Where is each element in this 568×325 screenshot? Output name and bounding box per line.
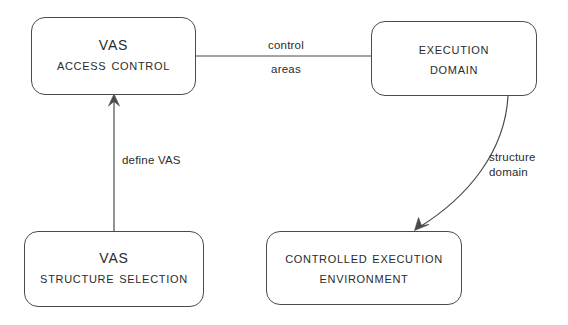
node-vas-structure-selection-line2: Structure Selection	[40, 268, 188, 288]
node-vas-structure-selection[interactable]: VAS Structure Selection	[24, 231, 204, 307]
edge-label-structure-domain: structure domain	[489, 150, 559, 180]
node-execution-domain-line2: Domain	[430, 59, 478, 79]
node-execution-domain-line1: Execution	[419, 39, 489, 59]
node-controlled-execution-environment[interactable]: Controlled Execution Environment	[266, 231, 462, 305]
node-vas-structure-selection-line1: VAS	[99, 250, 128, 268]
edge-structure-domain-arrowhead	[415, 218, 430, 231]
node-vas-access-control[interactable]: VAS Access Control	[31, 17, 196, 95]
node-controlled-execution-environment-line2: Environment	[320, 268, 409, 288]
diagram-canvas: VAS Access Control Execution Domain VAS …	[0, 0, 568, 325]
edge-label-control-areas: control areas	[258, 38, 314, 77]
edge-label-control-areas-line2: areas	[258, 62, 314, 77]
node-vas-access-control-line1: VAS	[99, 37, 128, 55]
edge-label-structure-domain-line1: structure	[489, 150, 559, 165]
node-execution-domain[interactable]: Execution Domain	[371, 21, 537, 96]
node-vas-access-control-line2: Access Control	[57, 55, 170, 75]
edge-label-structure-domain-line2: domain	[489, 165, 559, 180]
edge-label-define-vas: define VAS	[122, 153, 192, 168]
edge-label-define-vas-line1: define VAS	[122, 154, 181, 166]
edge-label-control-areas-line1: control	[258, 38, 314, 53]
node-controlled-execution-environment-line1: Controlled Execution	[285, 248, 443, 268]
